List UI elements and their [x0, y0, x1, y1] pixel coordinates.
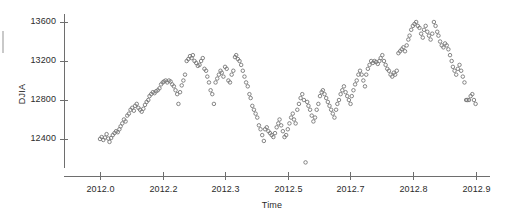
data-point [364, 73, 368, 77]
data-point [395, 69, 399, 73]
data-point [248, 92, 252, 96]
data-point [451, 65, 455, 69]
data-point [333, 116, 337, 120]
data-point [381, 53, 385, 57]
data-point [329, 108, 333, 112]
data-point [358, 69, 362, 73]
data-point [461, 75, 465, 79]
data-point [243, 75, 247, 79]
data-points [98, 20, 477, 164]
data-point [419, 32, 423, 36]
data-point [209, 89, 213, 93]
data-point [259, 128, 263, 132]
data-point [409, 28, 413, 32]
y-tick-label: 12800 [2, 94, 56, 104]
data-point [249, 96, 253, 100]
data-point [278, 118, 282, 122]
data-point [352, 89, 356, 93]
data-point [405, 44, 409, 48]
data-point [350, 94, 354, 98]
data-point [275, 126, 279, 130]
data-point [474, 102, 478, 106]
data-point [331, 112, 335, 116]
data-point [384, 63, 388, 67]
data-point [426, 30, 430, 34]
data-point [211, 92, 215, 96]
data-point [336, 102, 340, 106]
data-point [207, 81, 211, 85]
data-point [286, 128, 290, 132]
data-point [315, 108, 319, 112]
data-point [206, 75, 210, 79]
data-point [174, 89, 178, 93]
x-axis-title: Time [242, 200, 302, 210]
data-point [447, 48, 451, 52]
data-point [353, 83, 357, 87]
data-point [434, 24, 438, 28]
chart-figure: 12400128001320013600 2012.02012.22012.32… [0, 0, 506, 219]
data-point [177, 102, 181, 106]
data-point [407, 38, 411, 42]
y-axis-title: DJIA [17, 64, 27, 124]
data-point [438, 40, 442, 44]
data-point [323, 92, 327, 96]
data-point [262, 139, 266, 143]
data-point [363, 85, 367, 89]
data-point [454, 73, 458, 77]
x-tick-label: 2012.9 [453, 184, 501, 194]
data-point [421, 36, 425, 40]
data-point [313, 116, 317, 120]
data-point [252, 108, 256, 112]
y-tick-label: 12400 [2, 133, 56, 143]
data-point [326, 100, 330, 104]
data-point [232, 69, 236, 73]
data-point [324, 96, 328, 100]
data-point [355, 79, 359, 83]
data-point [180, 84, 184, 88]
data-point [345, 94, 349, 98]
data-point [241, 69, 245, 73]
x-tick-label: 2012.3 [202, 184, 250, 194]
data-point [307, 104, 311, 108]
x-tick-label: 2012.7 [327, 184, 375, 194]
scatter-plot-area: 12400128001320013600 2012.02012.22012.32… [0, 0, 506, 219]
data-point [256, 116, 260, 120]
data-point [448, 53, 452, 57]
data-point [472, 98, 476, 102]
data-point [132, 109, 136, 113]
data-point [339, 92, 343, 96]
data-point [142, 107, 146, 111]
data-point [432, 20, 436, 24]
data-point [317, 102, 321, 106]
x-tick-label: 2012.0 [77, 184, 125, 194]
data-point [288, 122, 292, 126]
data-point [182, 79, 186, 83]
data-point [246, 85, 250, 89]
y-axis [60, 14, 68, 168]
data-point [273, 131, 277, 135]
data-point [431, 32, 435, 36]
data-point [279, 124, 283, 128]
data-point [230, 73, 234, 77]
data-point [342, 85, 346, 89]
x-tick-label: 2012.2 [140, 184, 188, 194]
data-point [281, 129, 285, 133]
x-axis [64, 172, 490, 180]
data-point [349, 102, 353, 106]
data-point [301, 92, 305, 96]
data-point [429, 38, 433, 42]
data-point [244, 81, 248, 85]
data-point [435, 30, 439, 34]
data-point [304, 161, 308, 165]
data-point [222, 75, 226, 79]
data-point [215, 77, 219, 81]
data-point [178, 90, 182, 94]
data-point [463, 81, 467, 85]
data-point [183, 73, 187, 77]
data-point [328, 104, 332, 108]
data-point [382, 59, 386, 63]
data-point [239, 63, 243, 67]
data-point [403, 50, 407, 54]
data-point [437, 34, 441, 38]
data-point [254, 112, 257, 116]
